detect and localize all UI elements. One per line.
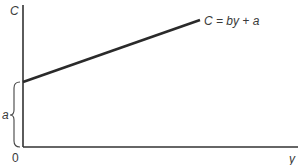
intercept-label: a <box>2 108 9 122</box>
origin-label: 0 <box>12 151 19 165</box>
x-axis-label: y <box>288 152 296 165</box>
y-axis-label: C <box>10 4 19 18</box>
consumption-function-diagram: C a 0 y C = by + a <box>0 0 298 165</box>
consumption-line <box>23 20 200 82</box>
intercept-brace <box>10 82 20 147</box>
equation-label: C = by + a <box>204 14 260 28</box>
